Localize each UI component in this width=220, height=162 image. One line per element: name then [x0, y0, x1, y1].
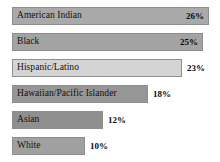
row-indent [0, 137, 12, 155]
row-indent [0, 111, 12, 129]
bar-category-label: Hispanic/Latino [17, 63, 79, 73]
row-indent [0, 85, 12, 103]
bar-value-outside: 18% [153, 90, 171, 99]
bar-category-label: Hawaiian/Pacific Islander [17, 89, 117, 99]
bar-value-label: 25% [180, 38, 198, 47]
row-indent [0, 59, 12, 77]
chart-row: American Indian 26% 26% [0, 7, 220, 25]
bar-category-label: White [17, 141, 40, 151]
bar-white[interactable]: White 10% [12, 137, 85, 155]
bar-value-outside: 10% [90, 142, 108, 151]
chart-row: Hispanic/Latino 23% 23% [0, 59, 220, 77]
row-indent [0, 7, 12, 25]
bar-category-label: Asian [17, 115, 39, 125]
bar-american-indian[interactable]: American Indian 26% [12, 7, 209, 25]
bar-asian[interactable]: Asian 12% [12, 111, 103, 129]
bar-black[interactable]: Black 25% [12, 33, 203, 51]
bar-value-outside: 23% [187, 64, 205, 73]
row-indent [0, 33, 12, 51]
chart-row: Black 25% 25% [0, 33, 220, 51]
chart-row: Asian 12% 12% [0, 111, 220, 129]
bar-category-label: Black [17, 37, 39, 47]
bar-value-label: 26% [186, 12, 204, 21]
bar-category-label: American Indian [17, 11, 82, 21]
horizontal-bar-chart: American Indian 26% 26% Black 25% 25% Hi… [0, 0, 220, 162]
bar-value-outside: 12% [108, 116, 126, 125]
chart-row: Hawaiian/Pacific Islander 18% 18% [0, 85, 220, 103]
chart-row: White 10% 10% [0, 137, 220, 155]
bar-hawaiian-pacific-islander[interactable]: Hawaiian/Pacific Islander 18% [12, 85, 148, 103]
bar-hispanic-latino[interactable]: Hispanic/Latino 23% [12, 59, 182, 77]
